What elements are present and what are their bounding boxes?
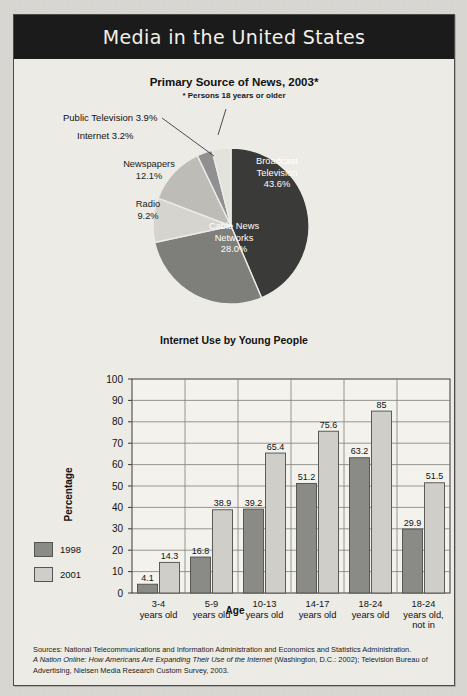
bar-1998-1 — [191, 557, 211, 593]
page-title: Media in the United States — [103, 26, 366, 48]
pie-label-broadcast-line2: Television — [257, 168, 298, 178]
y-tick-label: 10 — [112, 566, 124, 577]
x-axis-label: not in — [412, 620, 435, 629]
bar-1998-0 — [138, 584, 158, 593]
pie-svg — [14, 59, 456, 329]
sources-note: Sources: National Telecommunications and… — [33, 645, 437, 676]
x-axis-label: years old — [299, 610, 337, 620]
infographic-panel: Media in the United States Primary Sourc… — [13, 14, 455, 686]
y-tick-label: 30 — [112, 523, 124, 534]
x-axis-label: years old — [140, 610, 178, 620]
bar-2001-5 — [425, 483, 445, 593]
bar-y-axis-ticks: 0102030405060708090100 — [106, 374, 132, 599]
pie-label-internet: Internet 3.2% — [77, 130, 134, 141]
x-axis-label: 5-9 — [205, 599, 218, 609]
title-banner: Media in the United States — [14, 15, 454, 59]
pie-label-broadcast-television: Broadcast Television 43.6% — [239, 156, 315, 191]
y-tick-label: 40 — [112, 502, 124, 513]
bar-chart-graphic: 0102030405060708090100 4.114.316.838.939… — [14, 329, 456, 629]
bar-value-label: 4.1 — [141, 573, 154, 583]
sources-italic-title: A Nation Online: How Americans Are Expan… — [33, 655, 272, 664]
y-tick-label: 100 — [106, 374, 123, 385]
pie-label-radio-name: Radio — [136, 199, 160, 209]
sources-line-3: Advertising, Nielsen Media Research Cust… — [33, 666, 437, 676]
pie-label-cable-line2: Networks — [215, 233, 254, 243]
bar-value-label: 65.4 — [267, 442, 285, 452]
x-axis-label: years old — [246, 610, 284, 620]
x-axis-label: 3-4 — [152, 599, 165, 609]
leader-line-internet — [162, 118, 214, 156]
bar-1998-2 — [244, 509, 264, 593]
bar-value-label: 38.9 — [214, 498, 232, 508]
bar-value-label: 63.2 — [351, 446, 369, 456]
y-tick-label: 50 — [112, 481, 124, 492]
bar-1998-5 — [403, 529, 423, 593]
x-axis-label: 18-24 — [359, 599, 383, 609]
pie-label-cable-line1: Cable News — [209, 221, 259, 231]
y-tick-label: 0 — [117, 588, 123, 599]
bar-value-label: 75.6 — [320, 420, 338, 430]
pie-label-newspapers: Newspapers 12.1% — [109, 159, 189, 182]
bar-value-label: 51.2 — [298, 472, 316, 482]
pie-label-public-television: Public Television 3.9% — [63, 112, 157, 123]
pie-label-radio-value: 9.2% — [137, 211, 158, 221]
bar-2001-4 — [372, 411, 392, 593]
pie-label-newspapers-name: Newspapers — [123, 159, 175, 169]
x-axis-label: 18-24 — [412, 599, 436, 609]
pie-chart-section: Primary Source of News, 2003* * Persons … — [14, 59, 454, 329]
pie-label-newspapers-value: 12.1% — [136, 171, 162, 181]
bar-value-label: 85 — [376, 400, 386, 410]
bar-2001-0 — [160, 562, 180, 593]
y-tick-label: 60 — [112, 459, 124, 470]
y-tick-label: 20 — [112, 545, 124, 556]
bar-2001-1 — [213, 510, 233, 593]
bar-value-label: 29.9 — [404, 518, 422, 528]
sources-line-2: A Nation Online: How Americans Are Expan… — [33, 655, 437, 665]
bar-value-label: 51.5 — [426, 471, 444, 481]
bar-2001-3 — [319, 431, 339, 593]
bar-1998-3 — [297, 483, 317, 593]
bar-value-label: 39.2 — [245, 498, 263, 508]
pie-label-broadcast-value: 43.6% — [264, 179, 290, 189]
bar-2001-2 — [266, 453, 286, 593]
sources-line-1: Sources: National Telecommunications and… — [33, 645, 437, 655]
bar-x-axis-labels: 3-4years old5-9years old10-13years old14… — [140, 599, 444, 629]
pie-label-cable-value: 28.0% — [221, 244, 247, 254]
y-tick-label: 80 — [112, 416, 124, 427]
y-tick-label: 90 — [112, 395, 124, 406]
x-axis-label: 14-17 — [306, 599, 330, 609]
sources-line-2-rest: (Washington, D.C.: 2002); Television Bur… — [272, 655, 428, 664]
x-axis-label: years old — [352, 610, 390, 620]
bar-chart-xlabel: Age — [226, 605, 245, 616]
pie-chart-graphic: Public Television 3.9% Internet 3.2% New… — [14, 59, 456, 329]
bar-value-label: 14.3 — [161, 551, 179, 561]
x-axis-label: 10-13 — [253, 599, 277, 609]
x-axis-label: years old, — [403, 610, 443, 620]
pie-label-cable-news: Cable News Networks 28.0% — [194, 221, 274, 256]
bar-value-label: 16.8 — [192, 546, 210, 556]
pie-label-broadcast-line1: Broadcast — [256, 156, 298, 166]
bar-chart-section: Internet Use by Young People Percentage … — [14, 329, 454, 629]
pie-label-radio: Radio 9.2% — [121, 199, 175, 222]
bar-1998-4 — [350, 458, 370, 593]
leader-line-public-television — [218, 109, 226, 135]
y-tick-label: 70 — [112, 438, 124, 449]
